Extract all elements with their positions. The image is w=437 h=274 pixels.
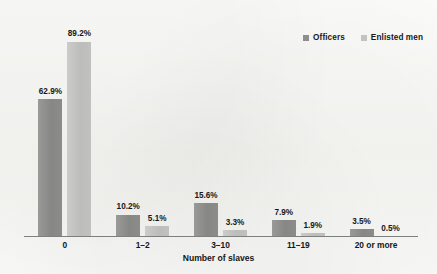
- x-tick-label-4: 20 or more: [337, 241, 415, 249]
- x-tick-label-1: 1–2: [104, 241, 182, 249]
- x-axis-tick-labels: 0 1–2 3–10 11–19 20 or more: [26, 241, 415, 249]
- bar-enlisted-2: 3.3%: [223, 18, 247, 237]
- bar-value-label: 62.9%: [39, 88, 62, 96]
- bar-officers-1: 10.2%: [116, 18, 140, 237]
- bar-enlisted-4: 0.5%: [379, 18, 403, 237]
- x-tick-label-0: 0: [26, 241, 104, 249]
- bar-value-label: 89.2%: [68, 30, 91, 38]
- bar-officers-3: 7.9%: [272, 18, 296, 237]
- bar-value-label: 5.1%: [148, 215, 167, 223]
- bar-officers-0: 62.9%: [38, 18, 62, 237]
- bar-value-label: 1.9%: [303, 222, 322, 230]
- bar-officers-2: 15.6%: [194, 18, 218, 237]
- bar-enlisted-0: 89.2%: [67, 18, 91, 237]
- bar-value-label: 3.5%: [352, 218, 371, 226]
- bar-value-label: 10.2%: [117, 203, 140, 211]
- scan-bleed-through-text: [0, 265, 437, 273]
- bar-rect: [116, 215, 140, 237]
- x-axis-title: Number of slaves: [0, 254, 437, 263]
- bar-value-label: 3.3%: [226, 219, 245, 227]
- bar-officers-4: 3.5%: [350, 18, 374, 237]
- bar-rect: [272, 220, 296, 237]
- bar-value-label: 0.5%: [381, 225, 400, 233]
- bar-group-0: 62.9% 89.2%: [26, 18, 104, 237]
- x-axis-line: [24, 236, 418, 237]
- x-tick-label-3: 11–19: [259, 241, 337, 249]
- bar-value-label: 15.6%: [194, 192, 217, 200]
- bar-group-2: 15.6% 3.3%: [182, 18, 260, 237]
- bar-value-label: 7.9%: [274, 209, 293, 217]
- bar-enlisted-1: 5.1%: [145, 18, 169, 237]
- bar-group-3: 7.9% 1.9%: [259, 18, 337, 237]
- bar-chart-figure: Officers Enlisted men 62.9% 89.2% 10.: [0, 0, 437, 274]
- bar-group-4: 3.5% 0.5%: [337, 18, 415, 237]
- bar-rect: [38, 99, 62, 237]
- bar-enlisted-3: 1.9%: [301, 18, 325, 237]
- bar-group-1: 10.2% 5.1%: [104, 18, 182, 237]
- bar-rect: [67, 42, 91, 237]
- plot-area: 62.9% 89.2% 10.2% 5.1%: [26, 18, 415, 237]
- x-tick-label-2: 3–10: [182, 241, 260, 249]
- bar-groups: 62.9% 89.2% 10.2% 5.1%: [26, 18, 415, 237]
- bar-rect: [194, 203, 218, 237]
